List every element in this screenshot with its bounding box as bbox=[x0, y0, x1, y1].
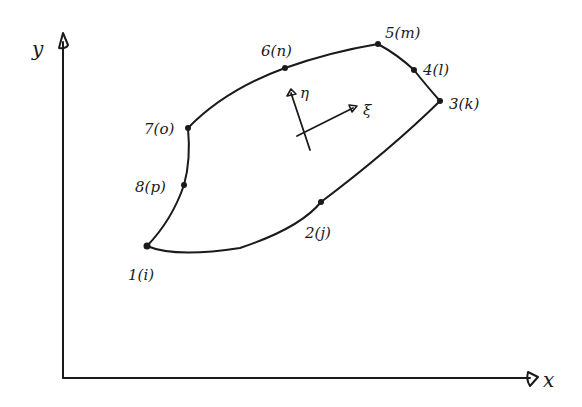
node-label-5: 5(m) bbox=[385, 24, 421, 42]
node-label-6: 6(n) bbox=[261, 42, 292, 60]
node-label-7: 7(o) bbox=[144, 120, 174, 138]
x-axis: x bbox=[63, 368, 554, 392]
local-axes: η ξ bbox=[287, 84, 372, 150]
eta-label: η bbox=[300, 84, 309, 102]
node-label-3: 3(k) bbox=[449, 95, 479, 113]
x-axis-label: x bbox=[543, 368, 554, 392]
y-axis: y bbox=[31, 33, 68, 378]
node-label-4: 4(l) bbox=[422, 61, 449, 79]
node-6[interactable] bbox=[282, 65, 288, 71]
node-3[interactable] bbox=[437, 98, 443, 104]
node-label-2: 2(j) bbox=[304, 224, 331, 242]
node-4[interactable] bbox=[411, 67, 417, 73]
node-5[interactable] bbox=[375, 41, 381, 47]
node-8[interactable] bbox=[181, 182, 187, 188]
node-2[interactable] bbox=[318, 199, 324, 205]
node-label-8: 8(p) bbox=[135, 178, 166, 196]
node-labels: 1(i) 2(j) 3(k) 4(l) 5(m) 6(n) 7(o) 8(p) bbox=[128, 24, 479, 284]
y-axis-label: y bbox=[31, 37, 44, 61]
xi-label: ξ bbox=[363, 101, 372, 119]
node-label-1: 1(i) bbox=[128, 266, 154, 284]
node-1[interactable] bbox=[144, 243, 151, 250]
node-7[interactable] bbox=[185, 125, 191, 131]
element-boundary bbox=[147, 44, 440, 253]
element-diagram: y x 1(i) 2(j) 3(k) 4(l) 5(m) 6(n) 7(o) bbox=[0, 0, 582, 407]
